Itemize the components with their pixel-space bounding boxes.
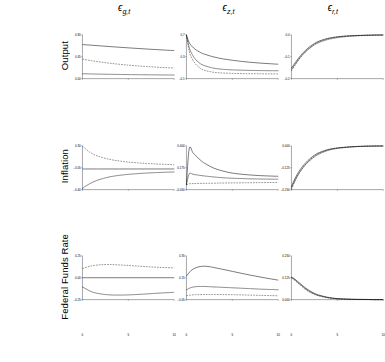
panel-svg-ffr-eps-r: 0.0000.1250.250: [281, 221, 385, 332]
xtick-label: 5: [128, 333, 130, 337]
impulse-response-figure: Output 0.000.450.90 ϵg,t −0.10.30.7 ϵz,t…: [0, 0, 385, 362]
series-solid: [187, 35, 279, 64]
panel-inflation-eps-z: −0.0500.1750.400: [176, 111, 280, 222]
series-dotted: [82, 74, 174, 75]
svg-text:0.175: 0.175: [178, 165, 186, 169]
svg-text:0.250: 0.250: [282, 254, 290, 258]
panel-grid: Output 0.000.450.90 ϵg,t −0.10.30.7 ϵz,t…: [0, 0, 385, 362]
svg-text:−0.25: −0.25: [73, 298, 81, 302]
svg-text:−0.250: −0.250: [280, 187, 289, 191]
series-dotted: [187, 287, 279, 290]
panel-output-eps-r: −0.2−0.10.0 ϵr,t: [281, 0, 385, 111]
series-dashed: [82, 265, 174, 269]
svg-text:−0.40: −0.40: [73, 187, 81, 191]
xtick-label: 5: [336, 333, 338, 337]
series-dotted: [291, 146, 383, 188]
series-solid: [291, 35, 383, 68]
svg-text:0.25: 0.25: [75, 254, 81, 258]
panel-inflation-eps-g: −0.40−0.050.30: [72, 111, 176, 222]
row-label-federal-funds-rate: Federal Funds Rate: [0, 221, 72, 332]
series-dashed: [187, 295, 279, 296]
svg-text:0.000: 0.000: [282, 144, 290, 148]
series-dotted: [291, 278, 383, 300]
xtick-label: 0: [186, 333, 188, 337]
panel-output-eps-z: −0.10.30.7 ϵz,t: [176, 0, 280, 111]
series-solid: [187, 267, 279, 281]
svg-text:−0.05: −0.05: [73, 165, 81, 169]
xaxis-svg-col-1: 0510: [72, 332, 176, 362]
xtick-label: 0: [290, 333, 292, 337]
panel-ffr-eps-z: −0.050.150.35: [176, 221, 280, 332]
panel-output-eps-g: 0.000.450.90 ϵg,t: [72, 0, 176, 111]
panel-svg-output-eps-g: 0.000.450.90: [72, 0, 176, 111]
panel-ffr-eps-r: 0.0000.1250.250: [281, 221, 385, 332]
panel-svg-ffr-eps-z: −0.050.150.35: [176, 221, 280, 332]
panel-svg-output-eps-z: −0.10.30.7: [176, 0, 280, 111]
svg-text:0.45: 0.45: [75, 55, 81, 59]
xaxis-labels-col-1: 0510: [72, 332, 176, 362]
panel-inflation-eps-r: −0.250−0.1250.000: [281, 111, 385, 222]
svg-text:0.15: 0.15: [179, 276, 185, 280]
series-dashed: [187, 182, 279, 184]
svg-text:0.30: 0.30: [75, 144, 81, 148]
svg-text:−0.1: −0.1: [179, 77, 185, 81]
svg-text:0.400: 0.400: [178, 144, 186, 148]
panel-svg-ffr-eps-g: −0.250.000.25: [72, 221, 176, 332]
svg-text:0.00: 0.00: [75, 77, 81, 81]
row-label-inflation: Inflation: [0, 111, 72, 222]
xaxis-labels-col-2: 0510: [176, 332, 280, 362]
panel-svg-inflation-eps-z: −0.0500.1750.400: [176, 111, 280, 222]
series-dashed: [82, 146, 174, 165]
svg-text:0.00: 0.00: [75, 276, 81, 280]
xtick-label: 5: [232, 333, 234, 337]
row-label-federal-funds-rate-text: Federal Funds Rate: [59, 234, 70, 320]
svg-text:0.000: 0.000: [282, 298, 290, 302]
svg-text:−0.05: −0.05: [178, 298, 186, 302]
panel-svg-inflation-eps-g: −0.40−0.050.30: [72, 111, 176, 222]
svg-text:−0.1: −0.1: [284, 55, 290, 59]
svg-text:0.7: 0.7: [181, 33, 185, 37]
series-dotted: [82, 172, 174, 188]
series-solid: [82, 45, 174, 51]
series-dashed: [187, 35, 279, 74]
svg-text:0.3: 0.3: [181, 55, 185, 59]
svg-text:0.90: 0.90: [75, 33, 81, 37]
xtick-label: 10: [381, 333, 385, 337]
xaxis-svg-col-2: 0510: [176, 332, 280, 362]
row-label-output-text: Output: [59, 41, 70, 70]
row-label-output: Output: [0, 0, 72, 111]
svg-text:0.125: 0.125: [282, 276, 290, 280]
svg-text:−0.2: −0.2: [284, 77, 290, 81]
svg-text:−0.050: −0.050: [176, 187, 185, 191]
xtick-label: 0: [82, 333, 84, 337]
svg-text:−0.125: −0.125: [280, 165, 289, 169]
panel-svg-inflation-eps-r: −0.250−0.1250.000: [281, 111, 385, 222]
xaxis-corner-spacer: [0, 332, 72, 362]
series-dashed: [291, 35, 383, 71]
series-dashed: [82, 59, 174, 68]
row-label-inflation-text: Inflation: [59, 149, 70, 183]
series-solid: [291, 146, 383, 187]
svg-text:0.35: 0.35: [179, 254, 185, 258]
series-solid: [291, 278, 383, 300]
series-dashed: [291, 146, 383, 189]
panel-svg-output-eps-r: −0.2−0.10.0: [281, 0, 385, 111]
series-dotted: [187, 35, 279, 71]
xaxis-svg-col-3: 0510: [281, 332, 385, 362]
panel-ffr-eps-g: −0.250.000.25: [72, 221, 176, 332]
svg-text:0.0: 0.0: [285, 33, 289, 37]
series-dotted: [82, 287, 174, 295]
xaxis-labels-col-3: 0510: [281, 332, 385, 362]
